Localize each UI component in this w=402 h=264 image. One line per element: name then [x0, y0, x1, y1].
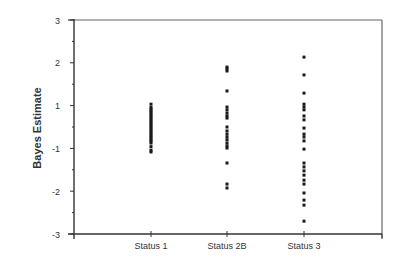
- data-point: [226, 126, 229, 129]
- y-tick-label: -2: [52, 187, 60, 197]
- data-point: [303, 148, 306, 151]
- data-point: [303, 133, 306, 136]
- y-tick-label: 2: [55, 58, 60, 68]
- data-point: [303, 106, 306, 109]
- x-tick-label: Status 1: [134, 241, 167, 251]
- data-point: [303, 204, 306, 207]
- y-tick-label: 1: [55, 101, 60, 111]
- data-point: [226, 138, 229, 141]
- data-point: [303, 165, 306, 168]
- y-tick-label: -3: [52, 230, 60, 240]
- data-point: [303, 191, 306, 194]
- data-point: [150, 142, 153, 145]
- data-point: [303, 179, 306, 182]
- data-point: [226, 108, 229, 111]
- scatter-chart: 321-1-2-3 Status 1Status 2BStatus 3: [0, 0, 402, 264]
- data-point: [226, 186, 229, 189]
- data-point: [303, 174, 306, 177]
- data-point: [226, 106, 229, 109]
- data-point: [226, 112, 229, 115]
- data-point: [226, 147, 229, 150]
- data-point: [303, 114, 306, 117]
- data-point: [226, 89, 229, 92]
- plot-frame: [68, 19, 382, 239]
- data-point: [226, 117, 229, 120]
- data-point: [303, 199, 306, 202]
- data-point: [226, 135, 229, 138]
- x-tick-label: Status 2B: [207, 241, 246, 251]
- y-axis: 321-1-2-3: [52, 16, 74, 240]
- data-point: [303, 127, 306, 130]
- data-point: [303, 183, 306, 186]
- data-point: [226, 133, 229, 136]
- data-point: [303, 169, 306, 172]
- data-point: [226, 183, 229, 186]
- data-point: [226, 70, 229, 73]
- data-point: [303, 108, 306, 111]
- data-point: [226, 162, 229, 165]
- data-point: [303, 162, 306, 165]
- data-point: [303, 92, 306, 95]
- data-points: [150, 56, 306, 223]
- x-tick-label: Status 3: [287, 241, 320, 251]
- data-point: [303, 139, 306, 142]
- data-point: [303, 135, 306, 138]
- data-point: [226, 142, 229, 145]
- data-point: [303, 118, 306, 121]
- data-point: [303, 56, 306, 59]
- data-point: [150, 103, 153, 106]
- y-tick-label: -1: [52, 144, 60, 154]
- data-point: [303, 220, 306, 223]
- data-point: [150, 150, 153, 153]
- data-point: [226, 129, 229, 132]
- data-point: [303, 73, 306, 76]
- y-tick-label: 3: [55, 16, 60, 26]
- data-point: [150, 145, 153, 148]
- data-point: [303, 103, 306, 106]
